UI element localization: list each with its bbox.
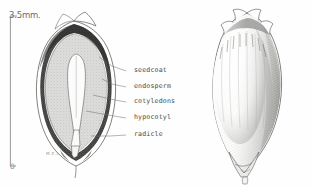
whole-seed-texture [210,10,288,178]
scale-top-label: 3.5mm. [9,11,41,20]
artist-signature: M.E.L. [46,152,61,156]
whole-seed-tip [242,177,248,184]
callout-label-seedcoat: seedcoat [134,67,167,74]
scale-bottom-label: 0 [10,163,15,171]
callout-label-endosperm: endosperm [134,83,171,90]
seed-anatomy-plate: 3.5mm. 0 M.E.L. seedcoat endosperm cotyl… [0,0,311,187]
callout-label-radicle: radicle [134,131,163,138]
specimen-whole-seed [210,9,288,184]
scale-bar [10,16,17,166]
callout-label-cotyledons: cotyledons [134,98,175,105]
illustration-canvas [0,0,311,187]
callout-label-hypocotyl: hypocotyl [134,114,171,121]
funiculus [75,166,76,178]
